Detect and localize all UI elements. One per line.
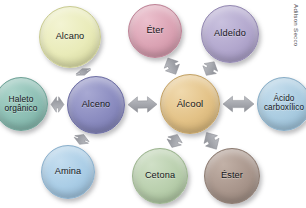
node-amina[interactable]: Amina [41, 145, 95, 199]
node-cetona[interactable]: Cetona [132, 148, 188, 204]
node-label-eter: Éter [144, 26, 165, 36]
illustrator-credit-text: Adilson Secco [293, 4, 300, 46]
illustrator-credit: Adilson Secco [293, 4, 306, 104]
node-label-aldeido: Aldeído [212, 29, 248, 39]
arrow-shape: Alceno ↔ Álcool [128, 97, 157, 113]
node-aldeido[interactable]: Aldeído [201, 5, 259, 63]
node-label-cetona: Cetona [143, 171, 177, 181]
arrow-alceno-to-amina: Alceno ↔ Amina [72, 132, 90, 148]
arrow-shape: Álcool ↔ Cetona [165, 131, 185, 150]
arrow-alceno-to-alcool: Alceno ↔ Álcool [128, 97, 157, 113]
node-alceno[interactable]: Alceno [67, 76, 125, 134]
node-label-haleto-organico: Haleto orgânico [3, 95, 40, 113]
node-eter[interactable]: Éter [128, 4, 182, 58]
arrow-shape: Álcool ↔ Éter [161, 55, 183, 78]
node-ester[interactable]: Éster [204, 148, 260, 204]
arrow-alcool-to-eter: Álcool ↔ Éter [161, 55, 183, 78]
node-alcano[interactable]: Alcano [39, 6, 101, 68]
node-label-alcano: Alcano [54, 32, 87, 42]
arrow-shape: Alceno ↔ Amina [72, 132, 90, 148]
arrow-alcool-to-cetona: Álcool ↔ Cetona [165, 131, 185, 150]
node-label-amina: Amina [53, 167, 84, 177]
arrow-alceno-to-haleto-organico: Alceno ↔ Haleto orgânico [51, 97, 64, 113]
node-label-ester: Éster [219, 171, 245, 181]
arrow-shape: Alceno ↔ Haleto orgânico [51, 97, 64, 113]
node-alcool[interactable]: Álcool [160, 74, 220, 134]
diagram-canvas: Alceno ↔ AlcanoAlceno ↔ Haleto orgânicoA… [0, 0, 306, 208]
node-label-alcool: Álcool [175, 99, 206, 109]
arrow-shape: Álcool ↔ Ácido carboxílico [223, 96, 254, 112]
arrow-alcool-to-acido-carboxilico: Álcool ↔ Ácido carboxílico [223, 96, 254, 112]
node-label-alceno: Alceno [80, 100, 113, 110]
